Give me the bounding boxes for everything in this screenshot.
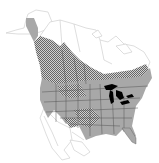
north-america-map: [0, 0, 159, 163]
florida: [122, 128, 136, 144]
range-map: [0, 0, 159, 163]
